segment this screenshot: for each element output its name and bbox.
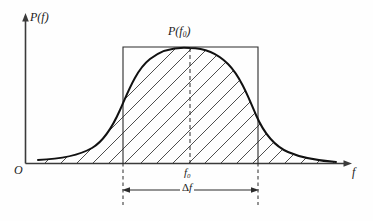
x-axis-label: f: [352, 166, 355, 178]
peak-label-subscript: 0: [183, 30, 187, 39]
bandwidth-label: Δf: [180, 182, 194, 193]
center-frequency-tick-label: f0: [184, 167, 190, 178]
hatched-area-under-curve: [30, 40, 345, 165]
peak-label-close: ): [186, 24, 190, 38]
y-axis-label: P(f): [30, 11, 49, 23]
bandwidth-variable: f: [189, 181, 192, 193]
origin-label: O: [14, 164, 23, 176]
y-axis: [22, 13, 29, 164]
peak-value-label: P(f0): [168, 25, 190, 37]
peak-label-base: P(f: [168, 24, 183, 38]
psd-bandwidth-figure: P(f) P(f0) O f f0 Δf: [0, 0, 373, 221]
f0-label-subscript: 0: [187, 172, 190, 179]
